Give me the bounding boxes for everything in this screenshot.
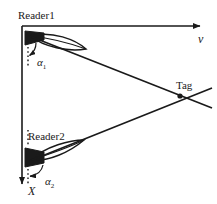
tag-label: Tag xyxy=(176,80,192,91)
reader1-group[interactable] xyxy=(25,31,86,68)
reader1-label: Reader1 xyxy=(18,10,55,21)
reader2-angle-arrow xyxy=(30,176,34,177)
diagram-svg xyxy=(0,0,217,204)
reader2-angle-arc xyxy=(30,165,43,176)
reader2-label: Reader2 xyxy=(28,131,65,142)
figure-canvas: Reader1 Reader2 Tag v X α1 α2 xyxy=(0,0,217,204)
reader1-to-tag-ray xyxy=(32,37,212,108)
vertical-axis-label: X xyxy=(28,185,35,197)
horizontal-axis-label: v xyxy=(198,33,203,45)
tag-point-icon[interactable] xyxy=(177,93,182,98)
alpha2-subscript: 2 xyxy=(51,182,55,190)
axis-group xyxy=(22,26,200,184)
alpha1-subscript: 1 xyxy=(43,63,47,71)
alpha2-label: α2 xyxy=(45,176,54,190)
reader2-to-tag-ray xyxy=(32,88,212,160)
alpha1-label: α1 xyxy=(37,57,46,71)
